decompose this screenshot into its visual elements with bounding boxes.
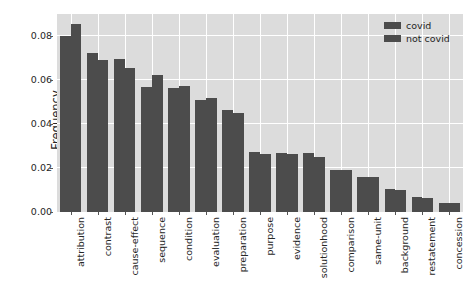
bar (314, 157, 325, 212)
bar (125, 68, 136, 212)
bar (449, 203, 460, 212)
x-axis-tick-mark (233, 212, 234, 215)
bar (260, 154, 271, 212)
y-axis-tick-label: 0.06 (6, 74, 52, 85)
x-axis-tick-mark (206, 212, 207, 215)
x-axis-tick-mark (395, 212, 396, 215)
bar (233, 113, 244, 212)
x-axis-tick-mark (287, 212, 288, 215)
y-axis-tick-mark (50, 212, 53, 213)
x-axis-tick-labels: attributioncontrastcause-effectsequencec… (57, 212, 463, 296)
y-axis-tick-label: 0.00 (6, 206, 52, 217)
x-axis-tick-mark (368, 212, 369, 215)
bar (152, 75, 163, 213)
bar (206, 98, 217, 212)
x-axis-tick-label: condition (183, 217, 194, 261)
x-axis-tick-label: same-unit (372, 217, 383, 265)
x-axis-tick-label: cause-effect (129, 217, 140, 275)
bar (141, 87, 152, 212)
x-axis-tick-label: comparison (345, 217, 356, 272)
x-axis-tick-mark (449, 212, 450, 215)
x-axis-tick-mark (152, 212, 153, 215)
x-axis-tick-mark (71, 212, 72, 215)
legend-label: not covid (406, 33, 450, 44)
bar (60, 36, 71, 212)
bar (98, 60, 109, 212)
x-axis-tick-mark (179, 212, 180, 215)
x-axis-tick-mark (260, 212, 261, 215)
x-axis-tick-mark (314, 212, 315, 215)
x-axis-tick-label: purpose (264, 217, 275, 256)
x-axis-tick-label: attribution (75, 217, 86, 267)
bar (195, 100, 206, 212)
chart-legend: covidnot covid (384, 18, 458, 48)
bar (385, 189, 396, 212)
bar (412, 197, 423, 212)
bar (357, 177, 368, 212)
bar (303, 153, 314, 212)
x-axis-tick-label: evaluation (210, 217, 221, 267)
y-axis-tick-label: 0.08 (6, 30, 52, 41)
bar (114, 59, 125, 212)
y-axis-tick-mark (50, 36, 53, 37)
y-axis-tick-mark (50, 168, 53, 169)
legend-item[interactable]: covid (384, 20, 458, 31)
x-axis-tick-label: preparation (237, 217, 248, 272)
bar (341, 170, 352, 212)
bar (276, 153, 287, 212)
bar (71, 24, 82, 212)
x-axis-tick-mark (98, 212, 99, 215)
bar (287, 154, 298, 212)
x-axis-tick-label: background (399, 217, 410, 273)
x-axis-tick-label: contrast (102, 217, 113, 256)
y-axis-tick-label: 0.04 (6, 118, 52, 129)
bar (87, 53, 98, 212)
legend-swatch (384, 22, 401, 29)
legend-swatch (384, 35, 401, 42)
bar (330, 170, 341, 212)
bar (395, 190, 406, 212)
bar (439, 203, 450, 212)
y-axis-tick-labels: 0.000.020.040.060.08 (0, 0, 52, 296)
x-axis-tick-mark (422, 212, 423, 215)
x-axis-tick-label: restatement (426, 217, 437, 275)
y-axis-tick-mark (50, 124, 53, 125)
bar (168, 88, 179, 212)
x-axis-tick-mark (125, 212, 126, 215)
x-axis-tick-label: concession (453, 217, 464, 270)
x-axis-tick-label: sequence (156, 217, 167, 263)
y-axis-tick-mark (50, 80, 53, 81)
chart-figure: Frequency 0.000.020.040.060.08 attributi… (0, 0, 475, 296)
x-axis-tick-mark (341, 212, 342, 215)
x-axis-tick-label: solutionhood (318, 217, 329, 278)
y-axis-tick-label: 0.02 (6, 162, 52, 173)
bar (249, 152, 260, 212)
bar (222, 110, 233, 212)
bar (179, 86, 190, 213)
bar (368, 177, 379, 212)
bar (422, 198, 433, 212)
x-axis-tick-label: evidence (291, 217, 302, 260)
legend-label: covid (406, 20, 431, 31)
legend-item[interactable]: not covid (384, 33, 458, 44)
